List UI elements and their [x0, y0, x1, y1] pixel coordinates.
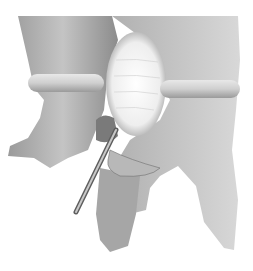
spinal-canal — [106, 32, 166, 136]
vertebrae-illustration — [0, 0, 253, 271]
spinous-process — [96, 168, 140, 252]
right-disc — [160, 80, 240, 98]
left-disc — [28, 74, 104, 92]
